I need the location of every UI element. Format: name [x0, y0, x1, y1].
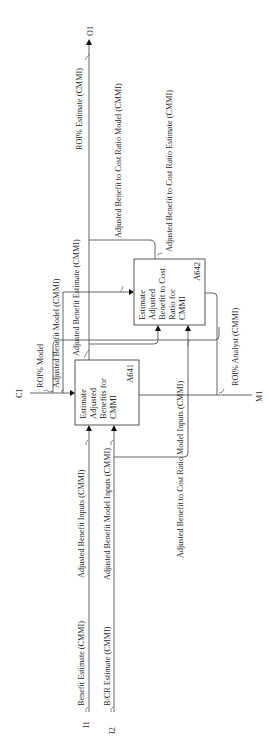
tunnel-i2-label: I2: [108, 727, 117, 734]
tunnel-c1-label: C1: [15, 388, 24, 398]
label-adj-bcr-estimate: Adjusted Benefit to Cost Ratio Estimate …: [165, 90, 174, 252]
label-adj-bcr-model-inputs: Adjusted Benefit to Cost Ratio Model Inp…: [176, 381, 185, 558]
box-a641-title-line-2: Adjusted: [88, 387, 98, 419]
label-adj-benefit-model: Adjusted Benefit Model (CMMI): [52, 278, 61, 388]
label-bcr-estimate: B/CR Estimate (CMMI): [103, 626, 112, 706]
label-adj-benefit-model-inputs: Adjusted Benefit Model Inputs (CMMI): [103, 448, 112, 580]
label-adj-benefit-inputs: Adjusted Benefit Inputs (CMMI): [77, 469, 86, 578]
box-a642-node: A642: [192, 262, 202, 281]
label-adj-bcr-model: Adjusted Benefit to Cost Ratio Model (CM…: [114, 83, 123, 238]
box-a642-title-line-2: Adjusted: [147, 288, 157, 320]
box-a641-title-line-4: CMMI: [108, 395, 118, 419]
box-a642-title-line-1: Estimate: [137, 290, 147, 320]
label-roi-model: ROI% Model: [36, 343, 45, 388]
tunnel-m1-label: M1: [255, 391, 264, 402]
box-a641-node: A641: [125, 364, 135, 383]
label-roi-estimate: ROI% Estimate (CMMI): [75, 68, 84, 150]
box-a641-title-line-3: Benefits for: [98, 378, 108, 419]
box-a642-title-line-3: Benefit to Cost: [157, 267, 167, 320]
arrow-adj-bcr-estimate: Adjusted Benefit to Cost Ratio Estimate …: [89, 90, 174, 259]
tunnel-i1-label: I1: [82, 721, 91, 728]
arrow-adj-bcr-model: Adjusted Benefit to Cost Ratio Model (CM…: [114, 83, 123, 292]
tunnel-o1-label: O1: [86, 26, 95, 36]
box-a642-title-line-5: CMMI: [177, 296, 187, 320]
arrow-roi-analyst: ROI% Analyst (CMMI): [205, 293, 240, 395]
label-benefit-estimate: Benefit Estimate (CMMI): [77, 621, 86, 706]
arrow-c1: C1: [15, 388, 75, 398]
arrow-i2: I2 B/CR Estimate (CMMI) Adjusted Benefit…: [103, 425, 117, 734]
label-roi-analyst: ROI% Analyst (CMMI): [231, 307, 240, 386]
box-a642-title-line-4: Ratio for: [167, 289, 177, 320]
box-a642[interactable]: Estimate Adjusted Benefit to Cost Ratio …: [134, 259, 205, 325]
arrow-i1: I1 Benefit Estimate (CMMI) Adjusted Bene…: [77, 425, 92, 728]
arrow-m1: M1: [139, 391, 264, 402]
box-a641-title-line-1: Estimate: [78, 389, 88, 419]
label-adj-benefit-estimate: Adjusted Benefit Estimate (CMMI): [72, 239, 81, 356]
idef0-diagram: Estimate Adjusted Benefits for CMMI A641…: [0, 0, 278, 751]
box-a641[interactable]: Estimate Adjusted Benefits for CMMI A641: [75, 360, 139, 425]
